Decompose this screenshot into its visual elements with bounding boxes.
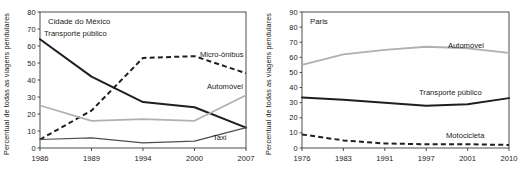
figure-two-panel-line-charts: Percentual de todas as viagens pendulare… [0,0,525,180]
y-tick-label: 60 [289,53,297,62]
y-tick-label: 70 [27,25,35,34]
y-tick-label: 90 [289,8,297,17]
x-tick-label: 1997 [418,154,435,163]
panel-cidade-do-mexico: Percentual de todas as viagens pendulare… [0,0,262,180]
x-tick-label: 1989 [83,154,100,163]
series-line-transporte-p-blico [302,97,509,105]
y-axis-title-left: Percentual de todas as viagens pendulare… [0,0,14,174]
y-tick-labels-right: 0102030405060708090 [289,8,297,153]
x-tick-label: 1986 [32,154,49,163]
y-tick-label: 20 [27,110,35,119]
y-tick-label: 0 [293,144,297,153]
panel-title-right: Paris [310,17,328,26]
x-tick-label: 1991 [376,154,393,163]
x-tick-label: 1983 [335,154,352,163]
series-annotations-right: AutomóvelTransporte públicoMotocicleta [419,41,485,140]
y-tick-label: 0 [31,144,35,153]
y-tick-label: 30 [289,98,297,107]
x-tick-label: 1994 [135,154,152,163]
series-line-autom-vel [40,95,246,121]
series-label-autom-vel: Automóvel [448,41,484,50]
series-label-motocicleta: Motocicleta [446,131,485,140]
plot-frame-right [302,12,509,148]
series-line-micro-nibus [40,56,246,139]
y-tick-label: 50 [27,59,35,68]
series-label-micro-nibus: Micro-ônibus [200,50,244,59]
series-label-taxi: Taxi [213,133,227,142]
series-label-transporte-p-blico: Transporte público [419,88,482,97]
y-tick-label: 10 [289,128,297,137]
plot-area-left: 01020304050607080 19861989199420002007 C… [14,0,262,180]
x-tick-label: 2010 [501,154,518,163]
y-tick-label: 10 [27,127,35,136]
x-tick-labels-right: 197619831991199720012010 [294,154,518,163]
series-label-autom-vel: Automóvel [207,82,243,91]
y-tick-label: 20 [289,113,297,122]
plot-area-right: 0102030405060708090 19761983199119972001… [276,0,525,180]
y-tick-label: 40 [27,76,35,85]
y-tick-label: 80 [27,8,35,17]
panel-title-left: Cidade do México [48,17,111,26]
series-annotations-left: Transporte públicoMicro-ônibusAutomóvelT… [44,29,244,142]
chart-svg-right: 0102030405060708090 19761983199119972001… [276,0,525,180]
x-tick-label: 2001 [459,154,476,163]
x-tick-labels-left: 19861989199420002007 [32,154,255,163]
x-tick-label: 2000 [186,154,203,163]
y-axis-title-right: Percentual de todas as viagens pendulare… [262,0,276,174]
y-tick-label: 40 [289,83,297,92]
y-tick-label: 30 [27,93,35,102]
y-tick-label: 70 [289,38,297,47]
y-tick-labels-left: 01020304050607080 [27,8,35,153]
chart-svg-left: 01020304050607080 19861989199420002007 C… [14,0,262,180]
series-label-transporte-p-blico: Transporte público [44,29,107,38]
panel-paris: Percentual de todas as viagens pendulare… [262,0,525,180]
x-tick-label: 2007 [238,154,255,163]
x-tick-label: 1976 [294,154,311,163]
y-tick-label: 50 [289,68,297,77]
y-tick-label: 60 [27,42,35,51]
y-tick-label: 80 [289,23,297,32]
